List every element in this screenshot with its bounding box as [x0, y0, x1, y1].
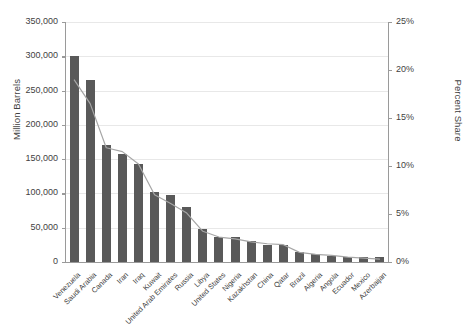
line-series — [66, 22, 388, 262]
y-tick-label: 250,000 — [2, 85, 58, 95]
y-axis-title-left: Million Barrels — [11, 67, 22, 153]
y2-tick-mark — [388, 262, 392, 263]
y2-tick-mark — [388, 118, 392, 119]
y-tick-mark — [62, 159, 66, 160]
y2-tick-label: 5% — [396, 208, 436, 218]
y2-tick-label: 10% — [396, 160, 436, 170]
y-tick-mark — [62, 22, 66, 23]
y-tick-mark — [62, 91, 66, 92]
y2-tick-label: 0% — [396, 256, 436, 266]
y2-tick-mark — [388, 214, 392, 215]
y2-tick-label: 20% — [396, 64, 436, 74]
percent-share-line — [74, 80, 380, 260]
y2-tick-mark — [388, 22, 392, 23]
y-tick-label: 50,000 — [2, 222, 58, 232]
y-tick-mark — [62, 125, 66, 126]
y-tick-label: 200,000 — [2, 119, 58, 129]
y-tick-label: 300,000 — [2, 50, 58, 60]
y-tick-label: 150,000 — [2, 153, 58, 163]
y-tick-mark — [62, 262, 66, 263]
y-tick-label: 0 — [2, 256, 58, 266]
y-tick-label: 350,000 — [2, 16, 58, 26]
right-axis-line — [388, 22, 389, 263]
y2-tick-label: 15% — [396, 112, 436, 122]
y-tick-mark — [62, 56, 66, 57]
y2-tick-mark — [388, 166, 392, 167]
y-axis-title-right: Percent Share — [453, 68, 464, 154]
y2-tick-label: 25% — [396, 16, 436, 26]
y-tick-mark — [62, 228, 66, 229]
bottom-axis-line — [65, 262, 389, 263]
y-tick-label: 100,000 — [2, 187, 58, 197]
oil-reserves-chart: Million Barrels Percent Share 350,000300… — [0, 0, 468, 332]
y-tick-mark — [62, 193, 66, 194]
plot-area: 350,000300,000250,000200,000150,000100,0… — [66, 22, 388, 262]
left-axis-line — [65, 22, 66, 263]
y2-tick-mark — [388, 70, 392, 71]
